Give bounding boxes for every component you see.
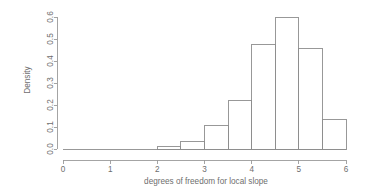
histogram-bar <box>299 49 323 149</box>
histogram-bars <box>63 17 346 149</box>
histogram-bar <box>275 17 299 149</box>
y-tick-label: 0.3 <box>46 77 55 89</box>
x-tick-label: 5 <box>297 165 302 174</box>
histogram-bar <box>181 141 205 149</box>
y-tick-label: 0.5 <box>46 33 55 45</box>
y-tick-label: 0.6 <box>46 11 55 23</box>
x-axis-title: degrees of freedom for local slope <box>144 177 268 186</box>
histogram-plot: 0.00.10.20.30.40.50.6 0123456 degrees of… <box>0 0 369 195</box>
x-axis <box>63 160 346 164</box>
histogram-bar <box>228 101 252 149</box>
y-tick-label: 0.1 <box>46 121 55 133</box>
y-tick-label: 0.0 <box>46 143 55 155</box>
x-tick-label: 1 <box>108 165 113 174</box>
histogram-bar <box>252 45 276 150</box>
y-axis-title: Density <box>23 65 32 93</box>
x-tick-label: 3 <box>202 165 207 174</box>
y-tick-label: 0.2 <box>46 99 55 111</box>
x-tick-label: 6 <box>344 165 349 174</box>
x-tick-label: 4 <box>249 165 254 174</box>
y-tick-label: 0.4 <box>46 55 55 67</box>
histogram-bar <box>322 119 346 149</box>
x-tick-label: 0 <box>61 165 66 174</box>
plot-canvas: 0.00.10.20.30.40.50.6 0123456 degrees of… <box>0 0 369 195</box>
histogram-bar <box>205 126 229 149</box>
x-tick-labels: 0123456 <box>61 165 349 174</box>
x-tick-label: 2 <box>155 165 160 174</box>
y-tick-labels: 0.00.10.20.30.40.50.6 <box>46 11 55 155</box>
